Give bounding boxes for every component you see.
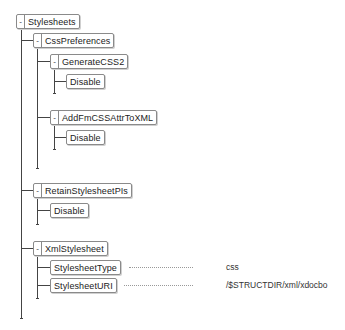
- root-connector: [21, 29, 22, 318]
- retain-pis-connector-end: [36, 224, 39, 225]
- node-add-fm-css-disable[interactable]: Disable: [66, 130, 105, 145]
- branch-add-fm-css-disable: [54, 137, 66, 138]
- branch-generate-css2: [37, 61, 50, 62]
- node-retain-stylesheet-pis[interactable]: - RetainStylesheetPIs: [33, 183, 132, 198]
- node-label: StylesheetType: [51, 263, 120, 273]
- node-stylesheets[interactable]: - Stylesheets: [16, 14, 80, 29]
- node-label: Disable: [67, 133, 104, 143]
- collapse-toggle-icon[interactable]: -: [34, 242, 42, 255]
- node-generate-css2[interactable]: - GenerateCSS2: [50, 54, 128, 69]
- retain-pis-connector: [37, 198, 38, 224]
- collapse-toggle-icon[interactable]: -: [34, 184, 42, 197]
- branch-add-fm-css: [37, 117, 50, 118]
- leader-stylesheet-uri: [124, 285, 193, 286]
- node-label: CssPreferences: [42, 36, 113, 46]
- stylesheet-uri-value[interactable]: /$STRUCTDIR/xml/xdocbo: [226, 280, 328, 290]
- xml-stylesheet-connector-end: [36, 298, 39, 299]
- node-stylesheet-uri[interactable]: StylesheetURI: [50, 278, 117, 293]
- node-xml-stylesheet[interactable]: - XmlStylesheet: [33, 241, 108, 256]
- node-add-fm-css-attr-to-xml[interactable]: - AddFmCSSAttrToXML: [50, 110, 157, 125]
- node-label: Disable: [51, 206, 88, 216]
- node-label: GenerateCSS2: [59, 57, 127, 67]
- branch-css-preferences: [21, 40, 33, 41]
- node-generate-css2-disable[interactable]: Disable: [66, 74, 105, 89]
- collapse-toggle-icon[interactable]: -: [51, 55, 59, 68]
- xml-stylesheet-connector: [37, 256, 38, 298]
- branch-stylesheet-type: [37, 267, 50, 268]
- node-label: Disable: [67, 77, 104, 87]
- css-preferences-connector: [37, 48, 38, 168]
- branch-retain-pis: [21, 190, 33, 191]
- collapse-toggle-icon[interactable]: -: [34, 34, 42, 47]
- branch-xml-stylesheet: [21, 248, 33, 249]
- leader-stylesheet-type: [129, 267, 193, 268]
- node-label: AddFmCSSAttrToXML: [59, 113, 156, 123]
- node-label: RetainStylesheetPIs: [42, 186, 131, 196]
- add-fm-css-connector-end: [53, 149, 56, 150]
- node-label: XmlStylesheet: [42, 244, 107, 254]
- stylesheet-type-value[interactable]: css: [226, 262, 239, 272]
- generate-css2-connector-end: [53, 93, 56, 94]
- css-preferences-connector-end: [36, 168, 39, 169]
- branch-stylesheet-uri: [37, 285, 50, 286]
- node-retain-pis-disable[interactable]: Disable: [50, 203, 89, 218]
- node-label: StylesheetURI: [51, 281, 116, 291]
- node-label: Stylesheets: [25, 17, 79, 27]
- root-connector-end: [20, 318, 23, 319]
- collapse-toggle-icon[interactable]: -: [17, 15, 25, 28]
- node-css-preferences[interactable]: - CssPreferences: [33, 33, 114, 48]
- collapse-toggle-icon[interactable]: -: [51, 111, 59, 124]
- branch-generate-css2-disable: [54, 81, 66, 82]
- branch-retain-pis-disable: [37, 210, 50, 211]
- node-stylesheet-type[interactable]: StylesheetType: [50, 260, 121, 275]
